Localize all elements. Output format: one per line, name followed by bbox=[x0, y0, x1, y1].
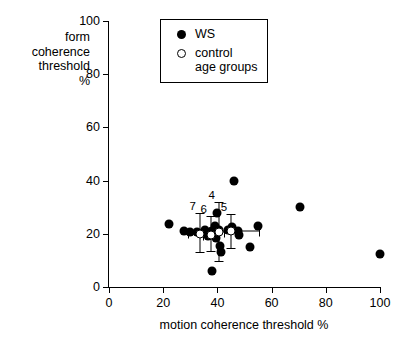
data-point-control bbox=[226, 227, 235, 236]
data-point-ws bbox=[229, 176, 238, 185]
legend-label-control: control age groups bbox=[195, 46, 258, 75]
x-axis-label: motion coherence threshold % bbox=[108, 318, 380, 332]
x-axis-tick-label: 40 bbox=[210, 296, 224, 310]
x-axis-tick-label: 60 bbox=[265, 296, 279, 310]
legend-label-control-line-2: age groups bbox=[195, 60, 258, 75]
x-axis-tick bbox=[217, 287, 218, 293]
legend-item-ws: WS bbox=[167, 27, 261, 42]
y-axis-tick bbox=[103, 74, 109, 75]
data-point-ws bbox=[296, 203, 305, 212]
y-axis-tick-label: 0 bbox=[93, 280, 100, 294]
legend-label-control-line-1: control bbox=[195, 46, 258, 61]
data-point-label-7: 7 bbox=[190, 200, 196, 212]
filled-circle-icon bbox=[167, 27, 195, 39]
y-axis-tick bbox=[103, 181, 109, 182]
x-axis-tick bbox=[326, 287, 327, 293]
x-axis-tick-label: 20 bbox=[156, 296, 170, 310]
y-axis-tick bbox=[103, 127, 109, 128]
data-point-label-6: 6 bbox=[200, 203, 206, 215]
x-axis-tick-label: 0 bbox=[106, 296, 113, 310]
x-axis-tick-label: 80 bbox=[319, 296, 333, 310]
x-axis-tick bbox=[272, 287, 273, 293]
data-point-ws bbox=[245, 243, 254, 252]
y-axis-tick-label: 40 bbox=[86, 174, 100, 188]
y-axis-label: form coherence threshold % bbox=[8, 30, 90, 88]
data-point-ws bbox=[164, 220, 173, 229]
data-point-control bbox=[195, 229, 204, 238]
x-axis-tick-label: 100 bbox=[370, 296, 391, 310]
data-point-label-4: 4 bbox=[209, 189, 215, 201]
data-point-ws bbox=[376, 249, 385, 258]
x-axis-tick bbox=[380, 287, 381, 293]
data-point-ws bbox=[254, 221, 263, 230]
data-point-ws bbox=[207, 267, 216, 276]
y-axis-tick-label: 100 bbox=[79, 14, 100, 28]
open-circle-icon bbox=[167, 46, 195, 58]
x-axis-tick bbox=[109, 287, 110, 293]
y-axis-tick-label: 80 bbox=[86, 67, 100, 81]
scatter-plot-figure: form coherence threshold % motion cohere… bbox=[0, 0, 404, 347]
y-axis-label-line-3: threshold bbox=[8, 59, 90, 74]
y-axis-tick-label: 60 bbox=[86, 120, 100, 134]
data-point-control bbox=[214, 228, 223, 237]
y-axis-tick-label: 20 bbox=[86, 227, 100, 241]
y-axis-tick bbox=[103, 21, 109, 22]
y-axis-label-line-2: coherence bbox=[8, 45, 90, 60]
data-point-label-5: 5 bbox=[221, 201, 227, 213]
data-point-ws bbox=[235, 231, 244, 240]
legend-item-control: control age groups bbox=[167, 46, 261, 75]
legend-label-ws: WS bbox=[195, 27, 215, 42]
legend: WS control age groups bbox=[160, 19, 268, 83]
y-axis-label-line-4: % bbox=[8, 74, 90, 89]
y-axis-tick bbox=[103, 234, 109, 235]
y-axis-label-line-1: form bbox=[8, 30, 90, 45]
x-axis-tick bbox=[163, 287, 164, 293]
